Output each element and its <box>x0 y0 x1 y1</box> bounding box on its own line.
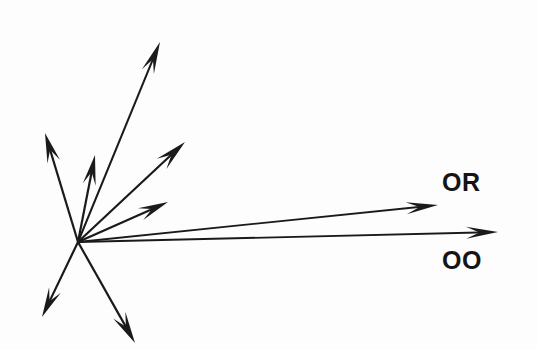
vector-9-down-right <box>78 242 135 343</box>
vector-3-up-right-long-head <box>142 42 160 74</box>
vector-8-down-left <box>42 242 78 317</box>
vectors-group <box>42 42 498 343</box>
vector-9-down-right-shaft <box>78 242 130 335</box>
vector-diagram-figure: OR OO <box>0 0 537 350</box>
vector-4-up-right-medium <box>78 142 185 242</box>
vector-8-down-left-shaft <box>46 242 78 309</box>
vector-label-oo: OO <box>442 248 482 273</box>
vector-1-up-left <box>45 133 78 242</box>
vector-6-or <box>78 202 438 242</box>
vector-7-oo <box>78 227 498 242</box>
vector-7-oo-shaft <box>78 232 488 242</box>
vector-label-or: OR <box>442 170 481 195</box>
vector-6-or-shaft <box>78 206 428 242</box>
vector-9-down-right-head <box>113 312 135 343</box>
vector-1-up-left-shaft <box>48 142 78 242</box>
vector-8-down-left-head <box>42 287 61 317</box>
vector-5-right-up-head <box>138 202 168 220</box>
